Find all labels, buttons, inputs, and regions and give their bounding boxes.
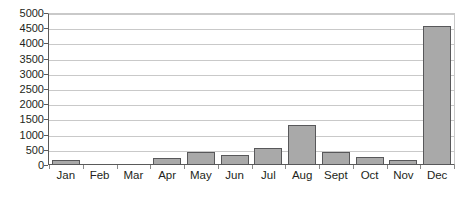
y-axis-tick (44, 13, 48, 14)
y-axis-tick-label: 2500 (0, 84, 44, 95)
x-axis-tick-label: Feb (83, 170, 117, 182)
y-axis-tick (44, 89, 48, 90)
y-axis-tick-label: 2000 (0, 99, 44, 110)
y-axis-tick (44, 43, 48, 44)
bar-slot (252, 13, 286, 165)
bar-slot (285, 13, 319, 165)
bar-slot (420, 13, 454, 165)
x-axis-tick (184, 165, 185, 169)
x-axis-tick-label: Jul (252, 170, 286, 182)
y-axis-tick-label: 5000 (0, 8, 44, 19)
x-axis-tick-label: Apr (150, 170, 184, 182)
y-axis-tick-label: 500 (0, 145, 44, 156)
bar-aug[interactable] (288, 125, 316, 165)
x-axis-tick-label: Oct (353, 170, 387, 182)
y-axis-tick (44, 150, 48, 151)
x-axis-tick-label: Aug (285, 170, 319, 182)
y-axis-tick (44, 59, 48, 60)
x-axis-labels: Jan Feb Mar Apr May Jun Jul Aug Sept Oct… (49, 170, 454, 194)
bar-slot (150, 13, 184, 165)
x-axis-tick (353, 165, 354, 169)
bar-sept[interactable] (322, 152, 350, 165)
x-axis-tick-label: Nov (387, 170, 421, 182)
y-axis-tick (44, 28, 48, 29)
bar-dec[interactable] (423, 26, 451, 165)
x-axis-tick (252, 165, 253, 169)
bar-slot (117, 13, 151, 165)
bar-jan[interactable] (52, 160, 80, 165)
bar-may[interactable] (187, 152, 215, 165)
bar-slot (218, 13, 252, 165)
x-axis-tick (218, 165, 219, 169)
y-axis-tick (44, 165, 48, 166)
bar-slot (184, 13, 218, 165)
bar-jun[interactable] (221, 155, 249, 165)
bar-slot (83, 13, 117, 165)
bar-slot (49, 13, 83, 165)
y-axis-labels: 5000 4500 4000 3500 3000 2500 2000 1500 … (0, 0, 44, 200)
x-axis-tick-label: Dec (420, 170, 454, 182)
bar-oct[interactable] (356, 157, 384, 165)
y-axis-tick-label: 4500 (0, 23, 44, 34)
bar-series (49, 13, 454, 165)
x-axis-tick (319, 165, 320, 169)
x-axis-tick-label: May (184, 170, 218, 182)
bar-nov[interactable] (389, 160, 417, 165)
y-axis-tick (44, 104, 48, 105)
x-axis-tick (83, 165, 84, 169)
y-axis-tick-label: 3000 (0, 69, 44, 80)
x-axis-tick (387, 165, 388, 169)
bar-slot (353, 13, 387, 165)
y-axis-tick-label: 1000 (0, 130, 44, 141)
bar-slot (387, 13, 421, 165)
x-axis-tick (420, 165, 421, 169)
x-axis-tick (454, 165, 455, 169)
x-axis-tick (117, 165, 118, 169)
y-axis-tick (44, 135, 48, 136)
y-axis-tick (44, 119, 48, 120)
x-axis-tick-label: Jan (49, 170, 83, 182)
x-axis-tick-label: Jun (218, 170, 252, 182)
bar-jul[interactable] (254, 148, 282, 165)
x-axis-tick-label: Sept (319, 170, 353, 182)
y-axis-tick-label: 3500 (0, 54, 44, 65)
x-axis-tick (285, 165, 286, 169)
y-axis-tick (44, 74, 48, 75)
x-axis-tick (49, 165, 50, 169)
bar-slot (319, 13, 353, 165)
bar-apr[interactable] (153, 158, 181, 165)
y-axis-tick-label: 4000 (0, 38, 44, 49)
y-axis-tick-label: 1500 (0, 114, 44, 125)
bar-chart: 5000 4500 4000 3500 3000 2500 2000 1500 … (0, 0, 465, 200)
x-axis-tick (150, 165, 151, 169)
x-axis-tick-label: Mar (117, 170, 151, 182)
y-axis-tick-label: 0 (0, 160, 44, 171)
